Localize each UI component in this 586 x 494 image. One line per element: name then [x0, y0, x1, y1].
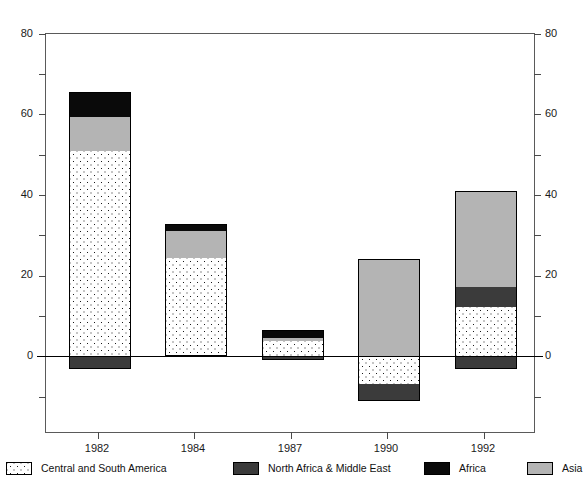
bar-segment-1990-north-africa-middle-east	[358, 384, 420, 401]
y-tick-right-30	[534, 235, 541, 236]
legend-label-asia: Asia	[562, 462, 582, 475]
x-tick-1992	[484, 432, 485, 439]
y-axis-label-left-20: 20	[21, 269, 33, 280]
bar-segment-1984-central-south-america	[165, 258, 227, 356]
legend-label-africa: Africa	[459, 462, 486, 475]
y-tick-right-10	[534, 316, 541, 317]
legend-swatch-lightgray-icon	[527, 462, 553, 475]
chart-legend: Central and South America North Africa &…	[0, 462, 586, 486]
y-tick-left-70	[39, 74, 46, 75]
y-axis-label-right-0: 0	[545, 350, 551, 361]
y-axis-label-left-40: 40	[21, 189, 33, 200]
bar-segment-1982-north-africa-middle-east	[69, 356, 131, 369]
y-tick-left-30	[39, 235, 46, 236]
bar-group-1992	[455, 34, 517, 432]
y-tick-left-20	[39, 276, 46, 277]
x-tick-1990	[387, 432, 388, 439]
y-tick-right-70	[534, 74, 541, 75]
bar-group-1990	[358, 34, 420, 432]
y-axis-label-right-40: 40	[545, 189, 557, 200]
zero-baseline	[37, 356, 543, 357]
y-tick-right-20	[534, 276, 541, 277]
stacked-bar-chart: 80 60 40 20 0 80 60 40 20 0	[0, 0, 586, 494]
bar-segment-1987-africa	[262, 330, 324, 338]
legend-swatch-dots-icon	[6, 462, 32, 475]
bar-segment-1992-central-south-america	[455, 307, 517, 356]
legend-item-central-and-south-america: Central and South America	[6, 462, 167, 475]
y-tick-right-50	[534, 155, 541, 156]
bar-segment-1982-central-south-america	[69, 151, 131, 356]
y-axis-label-right-60: 60	[545, 108, 557, 119]
legend-label-north-africa-middle-east: North Africa & Middle East	[268, 462, 391, 475]
bar-group-1982	[69, 34, 131, 432]
bar-group-1984	[165, 34, 227, 432]
bar-segment-1987-central-south-america	[262, 341, 324, 356]
y-tick-left-40	[39, 195, 46, 196]
y-tick-left-10	[39, 316, 46, 317]
y-tick-left-60	[39, 114, 46, 115]
y-tick-right-80	[534, 34, 541, 35]
bar-segment-1984-asia	[165, 231, 227, 258]
bar-segment-1992-asia	[455, 191, 517, 287]
bar-group-1987	[262, 34, 324, 432]
bar-segment-1992-north-africa-middle-east	[455, 287, 517, 307]
y-axis-label-left-0: 0	[27, 350, 33, 361]
bar-segment-1990-asia	[358, 259, 420, 356]
x-axis-label-1984: 1984	[181, 443, 205, 454]
bar-segment-1984-africa	[165, 224, 227, 231]
y-tick-left-minus10	[39, 397, 46, 398]
bar-segment-1982-africa	[69, 92, 131, 117]
legend-swatch-darkgray-icon	[233, 462, 259, 475]
x-tick-1984	[194, 432, 195, 439]
bar-segment-1990-central-south-america	[358, 356, 420, 384]
x-tick-1982	[98, 432, 99, 439]
bar-segment-1982-asia	[69, 117, 131, 151]
plot-area	[45, 33, 535, 433]
y-axis-label-right-20: 20	[545, 269, 557, 280]
y-axis-label-left-60: 60	[21, 108, 33, 119]
x-axis-label-1982: 1982	[85, 443, 109, 454]
y-tick-left-80	[39, 34, 46, 35]
legend-label-central-and-south-america: Central and South America	[41, 462, 167, 475]
y-tick-right-60	[534, 114, 541, 115]
x-axis-label-1987: 1987	[278, 443, 302, 454]
x-axis-label-1992: 1992	[471, 443, 495, 454]
y-axis-label-left-80: 80	[21, 28, 33, 39]
x-tick-1987	[291, 432, 292, 439]
legend-item-north-africa-middle-east: North Africa & Middle East	[233, 462, 391, 475]
legend-item-asia: Asia	[527, 462, 582, 475]
legend-swatch-black-icon	[424, 462, 450, 475]
bar-segment-1992-north-africa-middle-east-negative	[455, 356, 517, 369]
legend-item-africa: Africa	[424, 462, 486, 475]
x-axis-label-1990: 1990	[374, 443, 398, 454]
y-tick-right-minus10	[534, 397, 541, 398]
y-tick-right-40	[534, 195, 541, 196]
y-tick-left-50	[39, 155, 46, 156]
y-axis-label-right-80: 80	[545, 28, 557, 39]
